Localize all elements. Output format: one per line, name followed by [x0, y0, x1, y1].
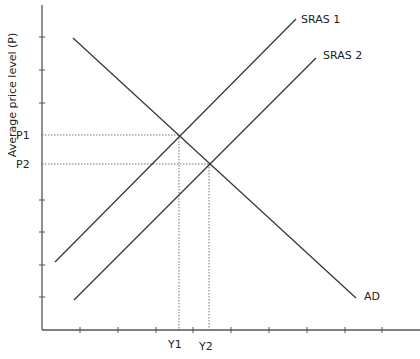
sras2-curve	[74, 58, 316, 300]
equilibrium-guides	[42, 135, 209, 330]
curves	[55, 19, 356, 300]
axes	[42, 5, 420, 330]
sras1-label: SRAS 1	[301, 14, 340, 25]
p2-label: P2	[16, 159, 30, 170]
y2-label: Y2	[199, 341, 213, 352]
ad-label: AD	[364, 291, 380, 302]
y1-label: Y1	[168, 339, 182, 350]
sras2-label: SRAS 2	[323, 50, 362, 61]
p1-label: P1	[16, 130, 30, 141]
